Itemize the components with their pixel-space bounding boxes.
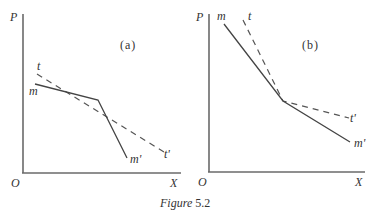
curve-m-start-label-a: m [29,84,38,98]
curve-m-start-label-b: m [217,9,226,23]
origin-label-b: O [198,175,207,189]
curve-m-end-label-b: m' [354,136,366,150]
y-axis-label-b: P [195,10,204,24]
curve-t-start-label-a: t [37,59,41,73]
x-axis-label-b: X [354,175,363,189]
panel-label-b: (b) [302,38,319,52]
origin-label-a: O [11,176,20,190]
x-axis-label-a: X [169,176,178,190]
caption-number: 5.2 [195,196,210,210]
figure-5-2: P O X (a) t t' m m' P O X (b) m t t' m' … [0,0,377,217]
figure-caption: Figure 5.2 [159,196,210,210]
curve-m-b [224,24,350,142]
curve-m-end-label-a: m' [130,152,142,166]
caption-prefix: Figure [159,196,193,210]
curve-t-end-label-b: t' [350,111,356,125]
y-axis-label-a: P [9,10,18,24]
curve-t-end-label-a: t' [164,147,170,161]
panel-label-a: (a) [120,38,136,52]
panel-b: P O X (b) m t t' m' [195,9,366,189]
curve-t-a [37,74,164,152]
curve-t-start-label-b: t [248,9,252,23]
panel-a: P O X (a) t t' m m' [9,10,181,190]
